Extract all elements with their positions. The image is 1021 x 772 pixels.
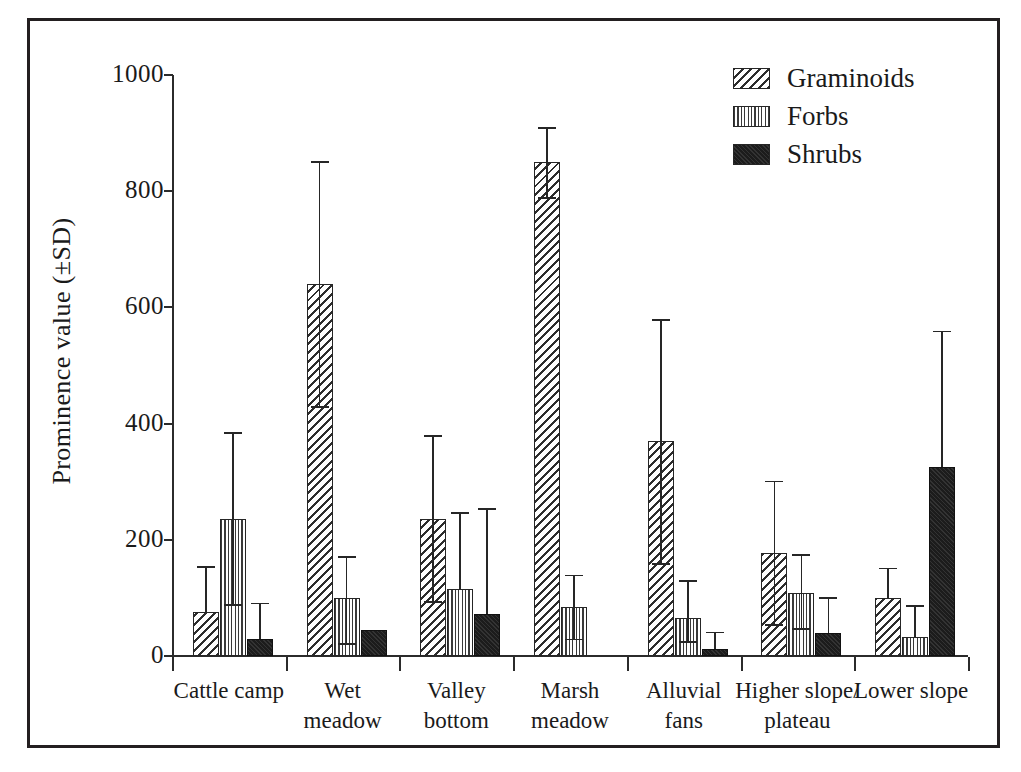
error-bar-cap-upper [251, 603, 269, 605]
error-bar-cap-upper [792, 554, 810, 556]
bar-forbs-2 [447, 589, 473, 656]
error-bar-cap-upper [338, 556, 356, 558]
legend-item-forbs: Forbs [733, 97, 983, 135]
error-bar-stem [432, 435, 434, 601]
x-category-line: Higher slope/ [733, 676, 863, 706]
x-category-label: Lower slope [846, 676, 976, 706]
bar-shrubs-2 [474, 614, 500, 656]
x-category-line: fans [619, 706, 749, 736]
error-bar-cap-upper [538, 127, 556, 129]
x-tick-mark [627, 657, 629, 671]
error-bar-cap-lower [679, 641, 697, 643]
legend-item-graminoids: Graminoids [733, 59, 983, 97]
error-bar-stem [232, 432, 234, 603]
error-bar-cap-upper [765, 481, 783, 483]
y-axis-line [172, 75, 174, 656]
error-bar-stem [687, 580, 689, 641]
y-tick-label: 0 [60, 642, 164, 667]
y-tick-label: 800 [60, 177, 164, 202]
legend-swatch-forbs [733, 106, 770, 127]
error-bar-cap-lower [565, 639, 583, 641]
x-category-label: Marshmeadow [505, 676, 635, 736]
error-bar-cap-upper [906, 605, 924, 607]
y-tick-mark [164, 190, 173, 192]
y-tick-mark [164, 306, 173, 308]
bar-shrubs-4 [702, 649, 728, 656]
y-tick-mark [164, 74, 173, 76]
error-bar-stem [714, 632, 716, 649]
error-bar-cap-upper [197, 566, 215, 568]
error-bar-cap-upper [451, 512, 469, 514]
bar-graminoids-3 [534, 162, 560, 656]
error-bar-cap-upper [424, 435, 442, 437]
error-bar-stem [459, 512, 461, 589]
x-category-label: Alluvialfans [619, 676, 749, 736]
error-bar-cap-upper [933, 331, 951, 333]
error-bar-cap-upper [679, 580, 697, 582]
bar-graminoids-6 [875, 598, 901, 656]
x-category-line: bottom [391, 706, 521, 736]
error-bar-stem [914, 605, 916, 637]
error-bar-stem [319, 161, 321, 406]
error-bar-cap-lower [765, 624, 783, 626]
error-bar-stem [205, 566, 207, 612]
bar-shrubs-0 [247, 639, 273, 656]
error-bar-cap-upper [224, 432, 242, 434]
y-axis-tick-labels: 02004006008001000 [60, 0, 164, 772]
error-bar-stem [828, 597, 830, 633]
error-bar-stem [774, 481, 776, 625]
x-tick-mark [741, 657, 743, 671]
x-category-line: Lower slope [846, 676, 976, 706]
error-bar-cap-upper [565, 575, 583, 577]
error-bar-cap-lower [538, 197, 556, 199]
error-bar-stem [941, 331, 943, 468]
error-bar-cap-upper [478, 508, 496, 510]
error-bar-cap-lower [792, 628, 810, 630]
error-bar-cap-lower [311, 406, 329, 408]
y-tick-mark [164, 539, 173, 541]
x-category-label: Cattle camp [164, 676, 294, 706]
error-bar-stem [346, 556, 348, 643]
error-bar-cap-upper [311, 161, 329, 163]
error-bar-stem [887, 568, 889, 598]
x-tick-mark [172, 657, 174, 671]
error-bar-cap-upper [819, 597, 837, 599]
error-bar-cap-upper [706, 632, 724, 634]
x-category-label: Higher slope/plateau [733, 676, 863, 736]
legend-label-forbs: Forbs [787, 103, 849, 130]
legend-swatch-shrubs [733, 144, 770, 165]
y-tick-label: 600 [60, 293, 164, 318]
x-category-line: Wet [278, 676, 408, 706]
bar-shrubs-6 [929, 467, 955, 656]
x-tick-mark [286, 657, 288, 671]
x-category-label: Wetmeadow [278, 676, 408, 736]
error-bar-stem [486, 508, 488, 614]
x-category-line: Marsh [505, 676, 635, 706]
legend-label-graminoids: Graminoids [787, 65, 915, 92]
bar-graminoids-0 [193, 612, 219, 656]
error-bar-stem [546, 127, 548, 197]
x-category-line: Alluvial [619, 676, 749, 706]
y-tick-label: 400 [60, 410, 164, 435]
x-tick-mark [399, 657, 401, 671]
x-tick-mark [968, 657, 970, 671]
y-tick-label: 200 [60, 526, 164, 551]
error-bar-stem [259, 603, 261, 639]
x-tick-mark [854, 657, 856, 671]
legend-item-shrubs: Shrubs [733, 135, 983, 173]
x-category-line: Valley [391, 676, 521, 706]
legend-swatch-graminoids [733, 68, 770, 89]
bar-forbs-6 [902, 637, 928, 656]
chart-legend: Graminoids Forbs Shrubs [733, 59, 983, 173]
bar-shrubs-1 [361, 630, 387, 656]
error-bar-cap-upper [652, 319, 670, 321]
x-category-line: Cattle camp [164, 676, 294, 706]
legend-label-shrubs: Shrubs [787, 141, 862, 168]
error-bar-stem [801, 554, 803, 628]
x-category-line: meadow [278, 706, 408, 736]
error-bar-stem [660, 319, 662, 563]
error-bar-cap-upper [879, 568, 897, 570]
error-bar-cap-lower [338, 643, 356, 645]
x-tick-mark [513, 657, 515, 671]
error-bar-stem [573, 575, 575, 639]
